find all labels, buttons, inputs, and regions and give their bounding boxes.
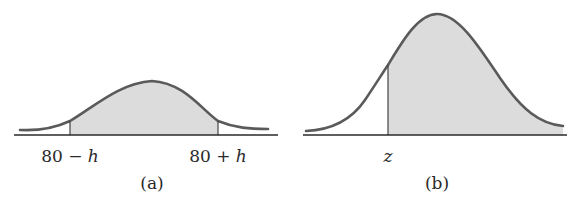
panel-b-caption: (b)	[425, 173, 449, 193]
panel-a-caption: (a)	[140, 173, 163, 193]
panel-a-left-label: 80 − h	[41, 146, 99, 166]
panel-b: z (b)	[303, 14, 567, 193]
normal-curves-figure: 80 − h 80 + h (a) z (b)	[0, 0, 571, 198]
panel-b-z-label: z	[383, 146, 394, 166]
panel-a-right-label: 80 + h	[189, 146, 247, 166]
panel-a: 80 − h 80 + h (a)	[14, 81, 278, 193]
